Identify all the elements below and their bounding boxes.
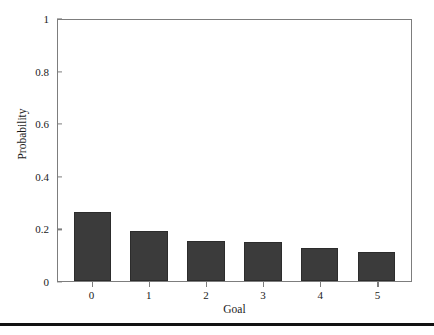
bar[interactable] bbox=[301, 248, 339, 281]
x-tick-mark bbox=[377, 282, 378, 287]
y-tick-label: 0.6 bbox=[35, 118, 49, 130]
bar-slot bbox=[121, 20, 178, 281]
bar[interactable] bbox=[358, 252, 396, 281]
x-tick-mark bbox=[92, 282, 93, 287]
bar-slot bbox=[178, 20, 235, 281]
y-tick-mark bbox=[57, 124, 62, 125]
bar-slot bbox=[348, 20, 405, 281]
bar-slot bbox=[64, 20, 121, 281]
x-tick-mark bbox=[320, 282, 321, 287]
x-tick-mark bbox=[149, 282, 150, 287]
bar[interactable] bbox=[187, 241, 225, 281]
y-axis-label: Probability bbox=[16, 74, 28, 194]
y-tick-mark bbox=[57, 18, 62, 19]
bar-series bbox=[58, 20, 411, 281]
y-tick-label: 0.8 bbox=[35, 66, 49, 78]
bar-slot bbox=[291, 20, 348, 281]
y-tick-label: 0 bbox=[44, 276, 50, 288]
bar-slot bbox=[234, 20, 291, 281]
bottom-rule bbox=[0, 323, 434, 326]
x-axis-label: Goal bbox=[57, 303, 412, 315]
y-tick-label: 0.2 bbox=[35, 223, 49, 235]
x-tick-mark bbox=[206, 282, 207, 287]
bar[interactable] bbox=[130, 231, 168, 281]
bar[interactable] bbox=[74, 212, 112, 281]
x-axis-ticks: 012345 bbox=[57, 282, 412, 304]
x-tick-mark bbox=[263, 282, 264, 287]
y-tick-label: 1 bbox=[44, 13, 50, 25]
y-tick-label: 0.4 bbox=[35, 171, 49, 183]
y-tick-mark bbox=[57, 229, 62, 230]
chart-figure: 00.20.40.60.81 012345 Goal Probability bbox=[0, 0, 434, 335]
y-tick-mark bbox=[57, 176, 62, 177]
bar[interactable] bbox=[244, 242, 282, 281]
y-axis-ticks: 00.20.40.60.81 bbox=[0, 19, 57, 282]
y-tick-mark bbox=[57, 71, 62, 72]
plot-area bbox=[57, 19, 412, 282]
